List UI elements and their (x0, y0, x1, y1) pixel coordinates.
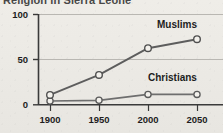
chart-container: Religion in Sierra Leone 100 50 0 19 (0, 0, 223, 133)
x-axis-label-1950: 1950 (79, 114, 119, 125)
y-axis-label-50: 50 (0, 54, 28, 65)
data-point-christians-2050 (194, 91, 200, 97)
series-line-muslims (50, 39, 197, 95)
data-point-muslims-1950 (96, 72, 103, 79)
data-point-muslims-1900 (47, 92, 54, 99)
x-axis-label-1900: 1900 (30, 114, 70, 125)
series-label-christians: Christians (148, 72, 197, 83)
x-axis-label-2050: 2050 (177, 114, 217, 125)
data-point-muslims-2050 (194, 36, 201, 43)
data-point-christians-1950 (96, 97, 102, 103)
data-point-christians-2000 (145, 91, 151, 97)
x-axis-label-2000: 2000 (128, 114, 168, 125)
series-line-christians (50, 94, 197, 101)
series-label-muslims: Muslims (157, 19, 197, 30)
y-axis-label-0: 0 (0, 99, 28, 110)
data-point-muslims-2000 (145, 45, 152, 52)
y-axis-label-100: 100 (0, 9, 28, 20)
